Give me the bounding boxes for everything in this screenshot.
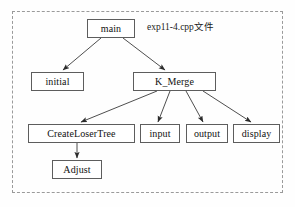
node-createlosertree[interactable]: CreateLoserTree bbox=[28, 124, 135, 143]
node-main[interactable]: main bbox=[87, 19, 135, 38]
node-display[interactable]: display bbox=[233, 124, 280, 143]
node-initial-label: initial bbox=[45, 77, 69, 87]
diagram-canvas: main exp11-4.cpp文件 initial K_Merge Creat… bbox=[0, 0, 295, 207]
node-adjust[interactable]: Adjust bbox=[52, 160, 102, 179]
node-main-label: main bbox=[101, 24, 121, 34]
node-adjust-label: Adjust bbox=[63, 165, 90, 175]
node-output-label: output bbox=[194, 129, 220, 139]
file-label: exp11-4.cpp文件 bbox=[147, 23, 214, 33]
node-output[interactable]: output bbox=[186, 124, 228, 143]
node-display-label: display bbox=[242, 129, 272, 139]
node-input[interactable]: input bbox=[140, 124, 180, 143]
node-initial[interactable]: initial bbox=[31, 72, 84, 91]
node-input-label: input bbox=[149, 129, 170, 139]
node-k-merge-label: K_Merge bbox=[155, 77, 194, 87]
node-k-merge[interactable]: K_Merge bbox=[133, 72, 216, 91]
node-createlosertree-label: CreateLoserTree bbox=[47, 129, 115, 139]
